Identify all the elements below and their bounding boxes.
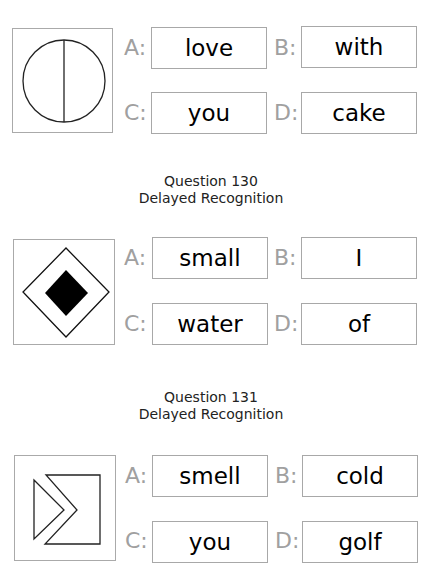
option-c-label: C: — [124, 313, 147, 335]
option-d-button[interactable]: cake — [301, 92, 417, 134]
option-c-button[interactable]: you — [151, 92, 267, 134]
option-a-button[interactable]: love — [151, 27, 267, 69]
option-b-label: B: — [274, 247, 297, 269]
option-d-button[interactable]: golf — [302, 521, 418, 563]
option-b-button[interactable]: I — [301, 237, 417, 279]
option-c-label: C: — [125, 530, 148, 552]
option-d-button[interactable]: of — [301, 303, 417, 345]
chevron-triangle-icon — [15, 456, 117, 562]
option-b-label: B: — [275, 465, 298, 487]
option-d-label: D: — [274, 102, 298, 124]
question-block-130: A: small B: I C: water D: of — [0, 239, 422, 349]
option-a-label: A: — [125, 465, 147, 487]
question-block-131: A: smell B: cold C: you D: golf — [0, 455, 422, 565]
question-header-130: Question 130 Delayed Recognition — [0, 173, 422, 207]
question-number: Question 131 — [0, 389, 422, 406]
question-type: Delayed Recognition — [0, 406, 422, 423]
option-a-label: A: — [124, 247, 146, 269]
stimulus-image — [14, 455, 116, 561]
question-number: Question 130 — [0, 173, 422, 190]
option-d-label: D: — [275, 530, 299, 552]
option-c-label: C: — [124, 102, 147, 124]
question-block-1: A: love B: with C: you D: cake — [0, 28, 422, 138]
stimulus-image — [12, 28, 113, 133]
stimulus-image — [13, 239, 115, 345]
option-d-label: D: — [274, 313, 298, 335]
diamond-in-diamond-icon — [14, 240, 116, 346]
option-a-button[interactable]: smell — [152, 455, 268, 497]
option-a-button[interactable]: small — [152, 237, 268, 279]
option-c-button[interactable]: water — [152, 303, 268, 345]
option-b-button[interactable]: with — [301, 26, 417, 68]
option-c-button[interactable]: you — [152, 521, 268, 563]
option-b-button[interactable]: cold — [302, 455, 418, 497]
option-b-label: B: — [274, 37, 297, 59]
question-header-131: Question 131 Delayed Recognition — [0, 389, 422, 423]
option-a-label: A: — [124, 37, 146, 59]
question-type: Delayed Recognition — [0, 190, 422, 207]
circle-vertical-line-icon — [13, 29, 114, 134]
